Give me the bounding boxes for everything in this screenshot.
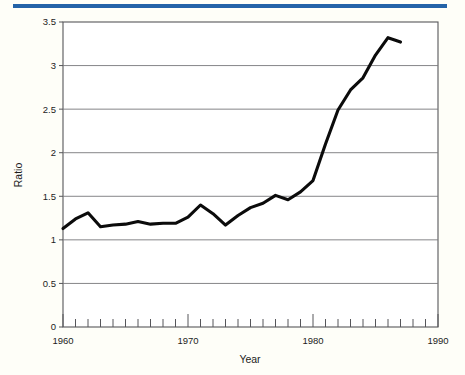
x-axis-title: Year: [239, 353, 261, 365]
y-tick-label: 3: [51, 60, 56, 71]
y-tick-label: 2: [51, 147, 56, 158]
x-tick-label: 1970: [177, 335, 198, 346]
chart-svg: 00.511.522.533.5 1960197019801990 Year R…: [0, 0, 465, 375]
x-tick-label: 1990: [427, 335, 448, 346]
line-chart: 00.511.522.533.5 1960197019801990 Year R…: [0, 0, 465, 375]
y-axis-title: Ratio: [12, 163, 24, 188]
y-tick-label: 1.5: [43, 191, 56, 202]
y-tick-label: 0.5: [43, 278, 56, 289]
plot-area: [63, 22, 438, 327]
y-tick-label: 1: [51, 234, 56, 245]
y-tick-label: 3.5: [43, 16, 56, 27]
page-background: 00.511.522.533.5 1960197019801990 Year R…: [0, 0, 465, 375]
x-tick-label: 1960: [52, 335, 73, 346]
y-axis-tick-labels: 00.511.522.533.5: [43, 16, 56, 332]
x-tick-label: 1980: [302, 335, 323, 346]
x-axis-tick-labels: 1960197019801990: [52, 335, 448, 346]
y-tick-label: 2.5: [43, 104, 56, 115]
y-tick-label: 0: [51, 321, 56, 332]
y-axis-ticks: [59, 22, 63, 327]
